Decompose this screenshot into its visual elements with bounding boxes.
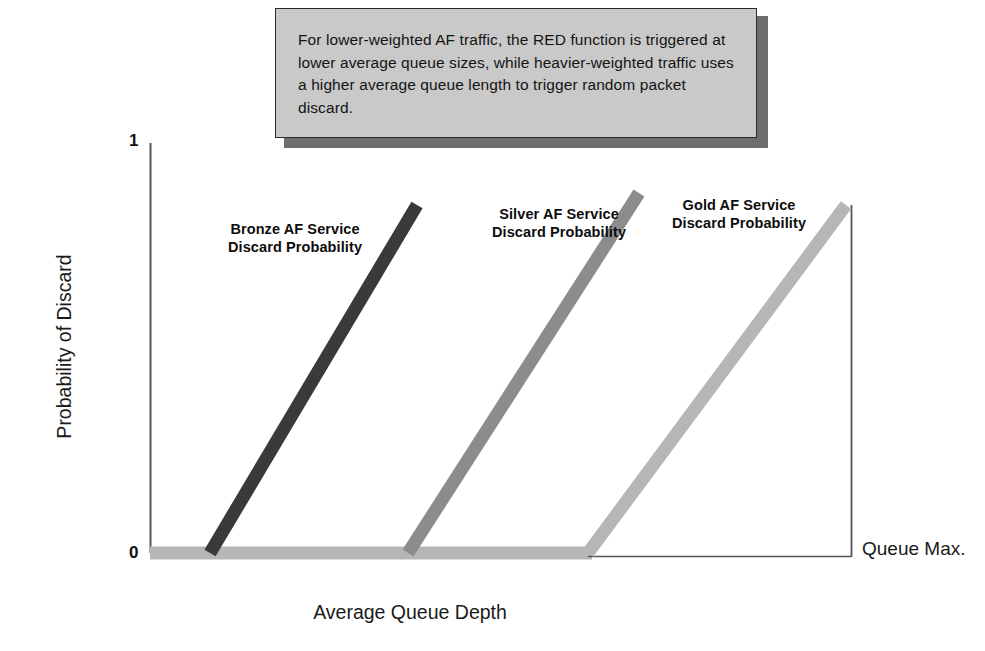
y-axis-tick-max: 1 [129, 131, 138, 151]
series-label-bronze-line2: Discard Probability [228, 238, 362, 256]
series-label-bronze: Bronze AF Service Discard Probability [228, 220, 362, 256]
silver-ramp-line [408, 193, 639, 553]
gold-ramp-line [588, 205, 846, 553]
red-discard-probability-chart [0, 0, 985, 651]
series-label-silver-line2: Discard Probability [492, 223, 626, 241]
series-label-gold-line2: Discard Probability [672, 214, 806, 232]
series-label-gold: Gold AF Service Discard Probability [672, 196, 806, 232]
series-label-silver-line1: Silver AF Service [492, 205, 626, 223]
y-axis-title: Probability of Discard [53, 197, 76, 497]
queue-max-label: Queue Max. [862, 538, 966, 560]
series-label-silver: Silver AF Service Discard Probability [492, 205, 626, 241]
series-label-gold-line1: Gold AF Service [672, 196, 806, 214]
x-axis-title: Average Queue Depth [250, 601, 570, 624]
bronze-ramp-line [210, 205, 417, 553]
y-axis-tick-min: 0 [129, 543, 138, 563]
series-label-bronze-line1: Bronze AF Service [228, 220, 362, 238]
